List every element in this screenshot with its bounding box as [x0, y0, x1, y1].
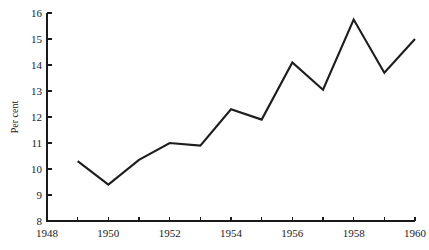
line-chart: 8910111213141516 19481950195219541956195…	[0, 0, 429, 250]
y-axis-tick-label: 14	[31, 59, 43, 71]
y-axis-tick-label: 9	[37, 189, 43, 201]
y-axis-title: Per cent	[9, 101, 20, 134]
y-axis-tick-label: 8	[37, 215, 43, 227]
x-axis-tick-label: 1948	[36, 227, 59, 239]
chart-container: 8910111213141516 19481950195219541956195…	[0, 0, 429, 250]
x-axis-tick-label: 1954	[220, 227, 243, 239]
y-axis-tick-label: 12	[31, 111, 42, 123]
y-axis-tick-label: 15	[31, 33, 43, 45]
y-axis-tick-label: 10	[31, 163, 43, 175]
x-axis-tick-label: 1960	[404, 227, 427, 239]
y-axis-title-text: Per cent	[9, 101, 20, 134]
x-axis-tick-label: 1950	[97, 227, 120, 239]
x-axis-tick-label: 1956	[281, 227, 304, 239]
y-axis-tick-label: 13	[31, 85, 43, 97]
x-axis-tick-label: 1952	[159, 227, 181, 239]
y-axis-tick-label: 11	[31, 137, 42, 149]
x-axis-tick-label: 1958	[343, 227, 366, 239]
y-axis-tick-label: 16	[31, 7, 43, 19]
